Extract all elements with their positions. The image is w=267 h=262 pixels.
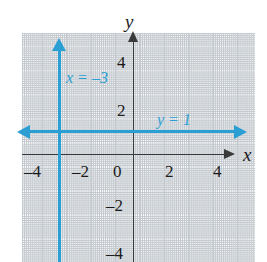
x-tick-label-4: 4 (213, 163, 222, 180)
y-tick-label-2: 2 (117, 102, 126, 119)
y-tick-label-4: 4 (117, 54, 126, 71)
x-tick-label-neg4: –4 (24, 163, 41, 180)
y-tick-label-neg4: –4 (106, 245, 123, 262)
x-axis-arrow-icon (224, 149, 235, 159)
x-tick-label-2: 2 (165, 163, 174, 180)
equation-label-vertical-line: x = –3 (66, 70, 108, 86)
y-tick-label-neg2: –2 (106, 197, 123, 214)
line-x-up-arrow-icon (52, 38, 66, 51)
origin-label: 0 (113, 163, 122, 180)
line-y-equals-1 (30, 130, 236, 133)
grid-background (22, 33, 255, 262)
x-tick-label-neg2: –2 (72, 163, 89, 180)
line-y-left-arrow-icon (17, 125, 30, 139)
x-axis (22, 154, 226, 155)
y-axis-label: y (125, 12, 133, 31)
line-y-right-arrow-icon (234, 125, 247, 139)
line-x-equals-negative-3 (58, 48, 61, 262)
x-axis-label: x (243, 145, 251, 164)
y-axis-arrow-icon (128, 31, 138, 42)
equation-label-horizontal-line: y = 1 (157, 112, 191, 128)
coordinate-plane-figure: y x –4 –2 0 2 4 4 2 –2 –4 x = –3 y = 1 (0, 0, 267, 262)
y-axis (133, 40, 134, 262)
